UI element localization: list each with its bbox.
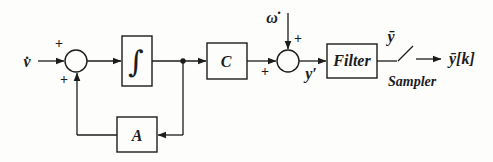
sampled-output-label: ȳ[k]: [447, 50, 475, 68]
input-signal-label: v̇: [23, 53, 31, 70]
gain-c-label: C: [221, 53, 232, 70]
integrator-symbol: ∫: [128, 44, 144, 79]
plus-sign-sum2-input: +: [261, 64, 269, 79]
summing-junction-left: [65, 50, 87, 72]
summed-output-label: y′: [303, 65, 317, 83]
summing-junction-right: [277, 50, 299, 72]
plus-sign-sum2-disturbance: +: [294, 31, 302, 46]
sampler-label: Sampler: [388, 74, 437, 89]
block-diagram-svg: v̇ + + ∫ A C + ω̇ + y′: [0, 0, 493, 162]
filter-label: Filter: [332, 52, 371, 69]
plus-sign-sum1-input: +: [55, 36, 63, 51]
disturbance-label: ω̇: [266, 9, 281, 26]
gain-a-label: A: [131, 127, 143, 144]
plus-sign-sum1-feedback: +: [60, 72, 68, 87]
filter-output-label: ȳ: [385, 28, 395, 46]
sampler-switch: [398, 46, 413, 61]
block-diagram: v̇ + + ∫ A C + ω̇ + y′: [0, 0, 493, 162]
